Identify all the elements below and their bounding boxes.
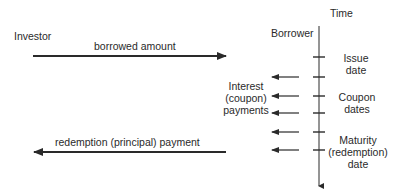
issue-line-2: date bbox=[336, 64, 376, 76]
interest-payments-label: Interest (coupon) payments bbox=[223, 80, 269, 116]
maturity-line-1: Maturity bbox=[325, 134, 391, 146]
issue-line-1: Issue bbox=[336, 52, 376, 64]
interest-line-1: Interest bbox=[223, 80, 269, 92]
borrower-label: Borrower bbox=[271, 27, 314, 39]
issue-date-label: Issue date bbox=[336, 52, 376, 76]
investor-label: Investor bbox=[14, 30, 51, 42]
time-axis-label: Time bbox=[330, 7, 353, 19]
borrowed-amount-label: borrowed amount bbox=[94, 40, 176, 52]
interest-line-3: payments bbox=[223, 104, 269, 116]
redemption-payment-label: redemption (principal) payment bbox=[55, 136, 200, 148]
interest-payment-arrows bbox=[272, 77, 299, 150]
coupon-line-1: Coupon bbox=[334, 91, 380, 103]
maturity-line-2: (redemption) bbox=[325, 146, 391, 158]
coupon-dates-label: Coupon dates bbox=[334, 91, 380, 115]
maturity-date-label: Maturity (redemption) date bbox=[325, 134, 391, 170]
coupon-line-2: dates bbox=[334, 103, 380, 115]
interest-line-2: (coupon) bbox=[223, 92, 269, 104]
maturity-line-3: date bbox=[325, 158, 391, 170]
